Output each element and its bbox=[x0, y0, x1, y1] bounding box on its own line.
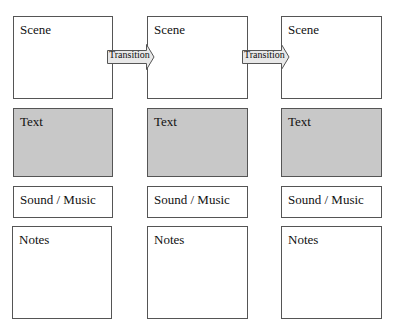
sound-panel-3: Sound / Music bbox=[281, 186, 382, 218]
sound-label: Sound / Music bbox=[288, 192, 364, 208]
transition-label: Transition bbox=[109, 49, 150, 60]
transition-label: Transition bbox=[244, 49, 285, 60]
scene-label: Scene bbox=[20, 22, 51, 38]
sound-panel-1: Sound / Music bbox=[13, 186, 113, 218]
scene-label: Scene bbox=[154, 22, 185, 38]
notes-label: Notes bbox=[19, 232, 49, 248]
sound-panel-2: Sound / Music bbox=[147, 186, 248, 218]
text-label: Text bbox=[154, 114, 177, 130]
scene-panel-1: Scene bbox=[13, 16, 113, 99]
notes-label: Notes bbox=[288, 232, 318, 248]
notes-panel-3: Notes bbox=[281, 226, 382, 319]
notes-panel-2: Notes bbox=[147, 226, 248, 319]
text-label: Text bbox=[20, 114, 43, 130]
sound-label: Sound / Music bbox=[154, 192, 230, 208]
text-panel-3: Text bbox=[281, 108, 382, 177]
text-label: Text bbox=[288, 114, 311, 130]
sound-label: Sound / Music bbox=[20, 192, 96, 208]
notes-panel-1: Notes bbox=[12, 226, 112, 319]
scene-label: Scene bbox=[288, 22, 319, 38]
notes-label: Notes bbox=[154, 232, 184, 248]
scene-panel-2: Scene bbox=[147, 16, 248, 99]
scene-panel-3: Scene bbox=[281, 16, 382, 99]
transition-arrow-2: Transition bbox=[242, 44, 288, 68]
transition-arrow-1: Transition bbox=[107, 44, 153, 68]
text-panel-2: Text bbox=[147, 108, 248, 177]
text-panel-1: Text bbox=[13, 108, 113, 177]
